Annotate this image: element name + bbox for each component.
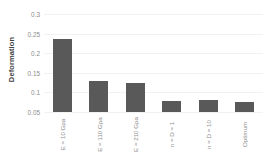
- y-tick-label: 0.1: [31, 89, 40, 96]
- bars-layer: [44, 14, 263, 112]
- x-tick-label: E = 210 Gpa: [117, 113, 154, 157]
- x-axis-tick-labels: E = 10 GpaE = 110 GpaE = 210 Gpan = D = …: [44, 113, 263, 157]
- x-tick-label: n = D = 1: [154, 113, 191, 157]
- y-tick-label: 0.25: [28, 30, 40, 37]
- x-tick-label-text: E = 210 Gpa: [132, 117, 139, 152]
- x-tick-label-text: E = 10 Gpa: [59, 119, 66, 150]
- x-tick-label-text: Optimum: [241, 122, 248, 147]
- bar: [126, 83, 145, 112]
- x-tick-label: E = 10 Gpa: [44, 113, 81, 157]
- plot-area: [44, 14, 263, 112]
- y-axis-title-text: Deformation: [8, 36, 17, 81]
- bar: [162, 101, 181, 112]
- y-axis-tick-labels: 0.30.250.20.150.10.05: [18, 14, 42, 112]
- bar: [53, 39, 72, 112]
- x-tick-label: n = D = 10: [190, 113, 227, 157]
- y-tick-label: 0.2: [31, 50, 40, 57]
- bar: [199, 100, 218, 112]
- y-tick-label: 0.3: [31, 11, 40, 18]
- y-tick-label: 0.05: [28, 109, 40, 116]
- bar: [89, 81, 108, 112]
- x-tick-label-text: n = D = 10: [205, 120, 212, 149]
- x-tick-label-text: n = D = 1: [168, 122, 175, 147]
- y-tick-label: 0.15: [28, 69, 40, 76]
- bar-chart: Deformation 0.30.250.20.150.10.05 E = 10…: [0, 0, 269, 157]
- x-tick-label: Optimum: [227, 113, 264, 157]
- x-tick-label-text: E = 110 Gpa: [95, 117, 102, 151]
- bar: [235, 102, 254, 112]
- x-tick-label: E = 110 Gpa: [81, 113, 118, 157]
